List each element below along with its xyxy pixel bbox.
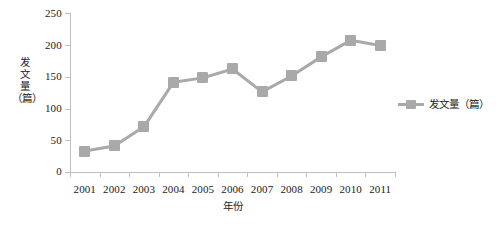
data-point-marker <box>375 40 386 51</box>
legend-marker-icon <box>398 98 424 109</box>
x-tick-mark <box>159 172 160 177</box>
chart-legend: 发文量（篇） <box>398 96 489 111</box>
x-tick-mark <box>218 172 219 177</box>
x-tick-mark <box>188 172 189 177</box>
y-tick-label-0-wrap: 0 <box>24 166 62 177</box>
y-axis-title-char-0: 发 <box>12 56 38 68</box>
x-tick-label: 2011 <box>360 183 400 195</box>
y-tick-label-50: 50 <box>26 135 62 146</box>
x-axis-line <box>70 172 396 173</box>
x-tick-mark <box>129 172 130 177</box>
y-tick-label-150: 150 <box>26 71 62 82</box>
y-axis-line <box>70 13 71 173</box>
y-tick-label-150-wrap: 150 <box>24 71 62 82</box>
y-tick-label-200-wrap: 200 <box>24 40 62 51</box>
data-point-marker <box>345 35 356 46</box>
y-tick-label-100: 100 <box>26 103 62 114</box>
y-tick-label-0: 0 <box>26 166 62 177</box>
x-tick-mark <box>336 172 337 177</box>
data-point-marker <box>316 51 327 62</box>
y-tick-label-250: 250 <box>26 8 62 19</box>
y-tick-label-250-wrap: 250 <box>24 8 62 19</box>
data-point-marker <box>257 86 268 97</box>
x-tick-mark <box>247 172 248 177</box>
legend-label: 发文量（篇） <box>429 96 489 111</box>
data-point-marker <box>197 72 208 83</box>
y-tick-label-200: 200 <box>26 40 62 51</box>
x-tick-mark <box>395 172 396 177</box>
x-tick-mark <box>100 172 101 177</box>
x-tick-mark <box>365 172 366 177</box>
data-point-marker <box>227 63 238 74</box>
data-point-marker <box>138 121 149 132</box>
x-tick-mark <box>70 172 71 177</box>
x-axis-title: 年份 <box>0 198 466 213</box>
data-point-marker <box>286 70 297 81</box>
data-point-marker <box>79 146 90 157</box>
y-tick-label-50-wrap: 50 <box>24 135 62 146</box>
chart-screenshot: 发 文 量 （篇） 250 200 150 100 50 0 200120022… <box>0 0 500 227</box>
data-point-marker <box>109 140 120 151</box>
x-tick-mark <box>277 172 278 177</box>
data-point-marker <box>168 77 179 88</box>
x-tick-mark <box>306 172 307 177</box>
y-tick-label-100-wrap: 100 <box>24 103 62 114</box>
